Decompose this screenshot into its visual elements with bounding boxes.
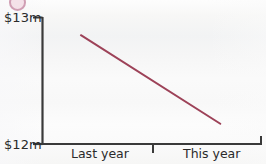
chart-screenshot: $13m $12m Last year This year — [0, 0, 266, 164]
data-line-series-0 — [81, 35, 220, 124]
x-axis-category-label-this-year: This year — [183, 148, 240, 161]
y-axis-label-bottom: $12m — [4, 138, 42, 151]
y-axis-label-top: $13m — [4, 11, 42, 24]
x-axis-category-label-last-year: Last year — [71, 148, 129, 161]
